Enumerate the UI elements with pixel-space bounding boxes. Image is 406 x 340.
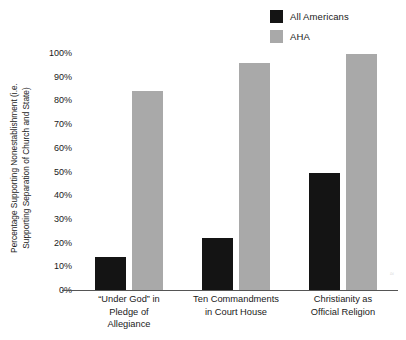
y-tick-20: 20% <box>54 238 72 248</box>
y-axis-title-line-1: Percentage Supporting Nonestablishment (… <box>8 83 20 253</box>
bar-all-americans-christianity-official <box>309 173 340 290</box>
x-label-ten-commandments-line-2: in Court House <box>176 306 296 319</box>
bar-group-christianity-official <box>303 53 383 290</box>
y-tick-70: 70% <box>54 119 72 129</box>
y-tick-50: 50% <box>54 167 72 177</box>
y-tick-30: 30% <box>54 214 72 224</box>
legend-label-all-americans: All Americans <box>290 11 349 22</box>
y-tick-10: 10% <box>54 261 72 271</box>
x-label-under-god-line-3: Allegiance <box>69 318 189 331</box>
y-tick-90: 90% <box>54 72 72 82</box>
x-label-christianity-official-line-2: Official Religion <box>283 306 403 319</box>
y-tick-40: 40% <box>54 190 72 200</box>
y-tick-60: 60% <box>54 143 72 153</box>
legend-swatch-aha-icon <box>270 30 283 43</box>
bar-group-ten-commandments <box>196 53 276 290</box>
scan-artifact: ≈ <box>390 270 394 278</box>
plot-area <box>75 53 395 290</box>
bar-group-under-god <box>89 53 169 290</box>
bar-aha-under-god <box>132 91 163 290</box>
bar-chart-figure: All Americans AHA Percentage Supporting … <box>0 0 406 340</box>
x-axis-baseline <box>68 290 398 291</box>
x-label-ten-commandments: Ten Commandments in Court House <box>176 293 296 318</box>
x-label-christianity-official-line-1: Christianity as <box>283 293 403 306</box>
bar-all-americans-ten-commandments <box>202 238 233 290</box>
legend-entry-all-americans: All Americans <box>270 8 400 25</box>
x-label-under-god-line-1: “Under God” in <box>69 293 189 306</box>
legend-entry-aha: AHA <box>270 28 400 45</box>
x-label-under-god-line-2: Pledge of <box>69 306 189 319</box>
chart-legend: All Americans AHA <box>270 8 400 48</box>
x-axis-category-labels: “Under God” in Pledge of Allegiance Ten … <box>75 293 395 340</box>
legend-swatch-all-americans-icon <box>270 10 283 23</box>
bar-all-americans-under-god <box>95 257 126 290</box>
x-label-ten-commandments-line-1: Ten Commandments <box>176 293 296 306</box>
bar-aha-ten-commandments <box>239 63 270 291</box>
y-tick-80: 80% <box>54 95 72 105</box>
x-label-christianity-official: Christianity as Official Religion <box>283 293 403 318</box>
y-axis-tick-labels: 100% 90% 80% 70% 60% 50% 40% 30% 20% 10%… <box>30 0 72 340</box>
y-tick-100: 100% <box>49 48 72 58</box>
bar-aha-christianity-official <box>346 54 377 290</box>
x-label-under-god: “Under God” in Pledge of Allegiance <box>69 293 189 331</box>
legend-label-aha: AHA <box>290 31 310 42</box>
